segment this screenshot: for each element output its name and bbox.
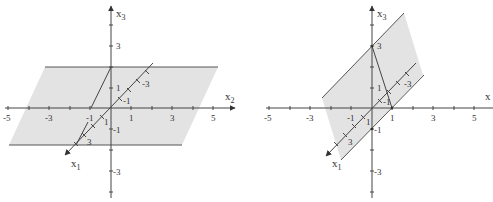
tick-label: 1 <box>116 83 121 93</box>
x3-axis-label: x3 <box>377 7 387 22</box>
tick-label: 1 <box>377 83 382 93</box>
x2-axis-label: x2 <box>225 90 235 105</box>
point <box>371 45 373 47</box>
point <box>371 128 373 130</box>
tick-label: 3 <box>431 113 436 123</box>
tick-label: 1 <box>129 113 134 123</box>
tick-label: -1 <box>123 96 131 106</box>
tick-label: 3 <box>377 41 382 51</box>
tick-label: -1 <box>86 113 94 123</box>
tick-label: -3 <box>404 79 412 89</box>
point <box>391 107 393 109</box>
x3-axis-label: x3 <box>116 7 126 22</box>
tick-label: 5 <box>211 113 216 123</box>
tick-label: -3 <box>45 113 53 123</box>
tick-label: 1 <box>366 117 371 127</box>
tick-label: -5 <box>3 113 11 123</box>
diagram-canvas: -5 -3 -1 1 3 5 x2 3 1 -1 -3 x3 -3 -1 1 3 <box>0 0 493 202</box>
tick-label: 3 <box>116 41 121 51</box>
tick-label: -3 <box>306 113 314 123</box>
tick-label: -1 <box>347 113 355 123</box>
tick-label: 5 <box>472 113 477 123</box>
tick-label: 1 <box>104 117 109 127</box>
tick-label: 1 <box>390 113 395 123</box>
tick-label: -3 <box>374 167 382 177</box>
tick-label: 3 <box>348 137 353 147</box>
left-panel: -5 -3 -1 1 3 5 x2 3 1 -1 -3 x3 -3 -1 1 3 <box>3 6 235 198</box>
tick-label: 3 <box>170 113 175 123</box>
tick-label: -1 <box>113 125 121 135</box>
tick-label: -1 <box>374 125 382 135</box>
tick-label: -3 <box>142 79 150 89</box>
x1-axis-label: x1 <box>71 157 81 172</box>
x1-axis-label: x1 <box>332 157 342 172</box>
x2-axis-label: x <box>485 90 491 102</box>
tick-label: -5 <box>264 113 272 123</box>
right-panel: -5 -3 -1 1 3 5 x 3 1 -1 -3 x3 -3 -1 1 3 <box>264 6 493 198</box>
tick-label: -3 <box>113 167 121 177</box>
tick-label: 3 <box>87 137 92 147</box>
